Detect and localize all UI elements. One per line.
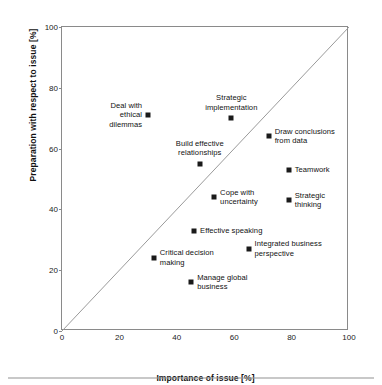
x-tick-label: 0 (47, 333, 77, 342)
data-point-marker[interactable] (212, 195, 217, 200)
data-point-marker[interactable] (151, 256, 156, 261)
y-tick-mark (59, 270, 62, 271)
y-tick-mark (59, 331, 62, 332)
data-point-label: Strategic thinking (295, 191, 325, 210)
data-point-marker[interactable] (146, 113, 151, 118)
data-point-label: Deal with ethical dilemmas (109, 101, 142, 130)
data-point-marker[interactable] (189, 280, 194, 285)
data-point-marker[interactable] (266, 134, 271, 139)
data-point-label: Teamwork (295, 165, 330, 175)
y-tick-mark (59, 88, 62, 89)
data-point-label: Effective speaking (200, 226, 262, 236)
scatter-chart-figure: Preparation with respect to issue [%] 02… (0, 0, 382, 385)
x-tick-label: 60 (219, 333, 249, 342)
data-point-marker[interactable] (192, 228, 197, 233)
data-point-marker[interactable] (246, 246, 251, 251)
data-point-label: Draw conclusions from data (275, 127, 335, 146)
data-point-marker[interactable] (286, 167, 291, 172)
data-point-label: Manage global business (197, 273, 247, 292)
y-tick-mark (59, 27, 62, 28)
data-point-label: Cope with uncertainty (220, 188, 258, 207)
data-point-label: Strategic implementation (205, 93, 257, 112)
data-point-label: Integrated business perspective (255, 239, 322, 258)
y-tick-label: 80 (32, 83, 58, 92)
y-tick-mark (59, 149, 62, 150)
y-tick-mark (59, 209, 62, 210)
data-point-label: Critical decision making (160, 248, 214, 267)
data-point-label: Build effective relationships (176, 139, 224, 158)
page-edge-line (8, 377, 374, 379)
data-point-marker[interactable] (197, 161, 202, 166)
y-axis-title: Preparation with respect to issue [%] (28, 0, 38, 215)
y-tick-label: 40 (32, 205, 58, 214)
x-tick-label: 20 (104, 333, 134, 342)
x-tick-label: 40 (162, 333, 192, 342)
x-tick-label: 80 (277, 333, 307, 342)
plot-area: 020406080100 020406080100 Deal with ethi… (61, 26, 348, 330)
y-tick-label: 100 (32, 23, 58, 32)
data-point-marker[interactable] (229, 116, 234, 121)
x-tick-label: 100 (334, 333, 364, 342)
y-tick-label: 20 (32, 266, 58, 275)
data-point-marker[interactable] (286, 198, 291, 203)
y-tick-label: 60 (32, 144, 58, 153)
